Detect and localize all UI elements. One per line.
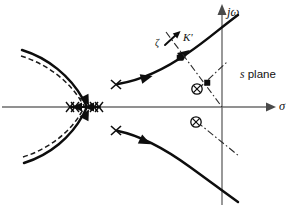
lower-zero-guide-line (197, 122, 239, 156)
construction-lines-group (165, 28, 239, 156)
gain-point-label: K' (183, 32, 193, 43)
lower-right-solid-branch (118, 131, 238, 202)
closed-loop-root-marker-upper (177, 55, 183, 61)
zero-mark-lower (191, 117, 201, 127)
s-plane-label: s plane (240, 69, 276, 81)
real-axis-label: σ (279, 100, 285, 113)
constant-damping-ray-line (166, 32, 222, 107)
damping-ratio-label: ζ (155, 38, 159, 48)
closed-loop-root-marker-lower (205, 80, 211, 86)
lower-right-branch-group (111, 126, 238, 202)
imaginary-axis-arrowhead (218, 4, 227, 15)
left-breakaway-lower-dashed-branch (23, 107, 85, 157)
s-plane-label-rest: plane (244, 68, 275, 80)
root-locus-canvas (0, 0, 296, 212)
left-breakaway-lower-solid-branch (24, 107, 87, 163)
upper-right-branch-group (111, 15, 238, 89)
axes-group (2, 4, 276, 205)
imaginary-axis-label: jω (227, 6, 239, 19)
root-locus-figure: jω σ s plane K' ζ (0, 0, 296, 212)
upper-right-solid-branch (118, 15, 238, 84)
left-breakaway-upper-solid-branch (22, 50, 87, 107)
real-axis-arrowhead (266, 103, 276, 112)
left-breakaway-upper-dashed-branch (21, 56, 85, 107)
zero-mark-upper (192, 84, 202, 94)
